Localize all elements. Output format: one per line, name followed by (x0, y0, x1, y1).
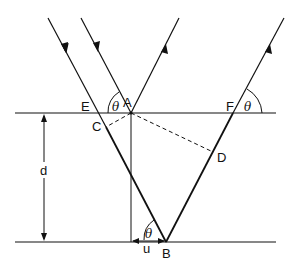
dashed-line-ac (106, 113, 131, 127)
arrow-left-icon (132, 238, 139, 244)
emergent-ray-f (233, 18, 284, 113)
label-f: F (226, 99, 234, 114)
label-a: A (123, 95, 132, 110)
point-a (129, 111, 132, 114)
label-c: C (92, 119, 101, 134)
arrow-up-icon (41, 114, 47, 122)
refracted-ray-cb (106, 127, 166, 242)
incident-ray-1 (48, 18, 106, 127)
label-theta-b: θ (145, 227, 153, 241)
label-b: B (162, 246, 171, 261)
ray-bd (166, 113, 233, 242)
arrow-down-icon (41, 233, 47, 241)
diagram-canvas: d u θ A E C F θ D θ B (0, 0, 292, 268)
reflected-ray-a (131, 18, 179, 113)
label-e: E (81, 99, 90, 114)
dashed-line-ad (131, 113, 213, 152)
label-u: u (143, 241, 150, 256)
label-theta-f: θ (244, 100, 252, 114)
label-d: d (40, 163, 47, 178)
label-d-point: D (217, 150, 226, 165)
label-theta-a: θ (112, 100, 120, 114)
